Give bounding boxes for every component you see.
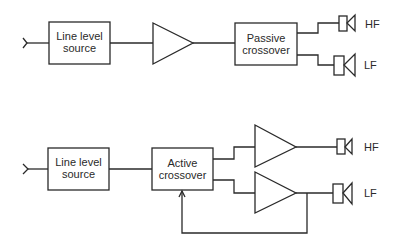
active-crossover-label: Active crossover bbox=[152, 157, 213, 181]
input-connector-icon bbox=[23, 164, 28, 174]
lf-speaker-icon bbox=[334, 54, 355, 76]
hf-amplifier-icon bbox=[255, 125, 296, 167]
hf-label: HF bbox=[365, 18, 380, 30]
hf-label: HF bbox=[364, 141, 379, 153]
source-label: Line level source bbox=[49, 30, 110, 54]
source-label: Line level source bbox=[48, 156, 109, 180]
crossover-label-line1: Passive bbox=[235, 32, 297, 44]
lf-label: LF bbox=[364, 59, 377, 71]
source-label-line1: Line level bbox=[49, 30, 110, 42]
source-label-line2: source bbox=[49, 42, 110, 54]
crossover-label-line1: Active bbox=[152, 157, 213, 169]
hf-speaker-icon bbox=[339, 15, 355, 31]
lf-amplifier-icon bbox=[255, 172, 296, 213]
input-connector-icon bbox=[23, 38, 27, 48]
source-label-line2: source bbox=[48, 168, 109, 180]
amplifier-icon bbox=[153, 23, 193, 64]
passive-crossover-label: Passive crossover bbox=[235, 32, 297, 56]
hf-speaker-icon bbox=[337, 139, 352, 154]
crossover-label-line2: crossover bbox=[235, 44, 297, 56]
lf-label: LF bbox=[364, 187, 377, 199]
source-label-line1: Line level bbox=[48, 156, 109, 168]
lf-speaker-icon bbox=[333, 183, 352, 204]
crossover-label-line2: crossover bbox=[152, 169, 213, 181]
